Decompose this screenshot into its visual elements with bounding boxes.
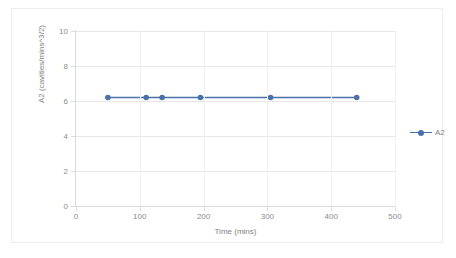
x-gridline <box>204 31 205 206</box>
x-axis-line <box>75 206 395 207</box>
data-point <box>198 95 204 101</box>
y-tick-label-wrap: 8 <box>42 62 68 71</box>
y-tick-mark <box>71 66 75 67</box>
y-tick-label: 0 <box>46 202 68 211</box>
y-tick-label: 8 <box>46 62 68 71</box>
data-point <box>354 95 360 101</box>
x-gridline <box>331 31 332 206</box>
data-point <box>159 95 165 101</box>
y-gridline <box>76 66 395 67</box>
x-tick-label: 100 <box>123 212 157 221</box>
x-tick-mark <box>267 207 268 211</box>
chart-legend: A2 <box>410 128 445 137</box>
x-tick-mark <box>331 207 332 211</box>
y-tick-mark <box>71 206 75 207</box>
series-a2-svg <box>76 31 395 206</box>
y-tick-label-wrap: 4 <box>42 132 68 141</box>
x-tick-label: 0 <box>59 212 93 221</box>
y-tick-label: 10 <box>46 27 68 36</box>
y-tick-label: 4 <box>46 132 68 141</box>
data-point <box>268 95 274 101</box>
x-tick-mark <box>76 207 77 211</box>
data-point <box>105 95 111 101</box>
y-tick-mark <box>71 171 75 172</box>
y-gridline <box>76 31 395 32</box>
y-tick-label-wrap: 10 <box>42 27 68 36</box>
x-gridline <box>395 31 396 206</box>
y-tick-mark <box>71 31 75 32</box>
x-gridline <box>140 31 141 206</box>
y-gridline <box>76 101 395 102</box>
y-tick-mark <box>71 101 75 102</box>
data-point <box>143 95 149 101</box>
x-tick-mark <box>140 207 141 211</box>
x-gridline <box>267 31 268 206</box>
plot-area <box>76 31 395 206</box>
y-gridline <box>76 171 395 172</box>
legend-label-a2: A2 <box>435 128 445 137</box>
chart-container: A2 (cavities/mins^3/2) Time (mins) A2 02… <box>11 8 443 243</box>
y-tick-label-wrap: 0 <box>42 202 68 211</box>
x-tick-label: 300 <box>250 212 284 221</box>
y-tick-label: 2 <box>46 167 68 176</box>
x-tick-label: 200 <box>187 212 221 221</box>
x-tick-label: 500 <box>378 212 412 221</box>
y-tick-mark <box>71 136 75 137</box>
legend-marker-icon <box>410 129 432 137</box>
x-tick-mark <box>204 207 205 211</box>
legend-dot-icon <box>418 130 424 136</box>
y-tick-label-wrap: 6 <box>42 97 68 106</box>
x-tick-mark <box>395 207 396 211</box>
x-tick-label: 400 <box>314 212 348 221</box>
y-tick-label-wrap: 2 <box>42 167 68 176</box>
y-gridline <box>76 136 395 137</box>
y-tick-label: 6 <box>46 97 68 106</box>
x-axis-title: Time (mins) <box>76 227 395 236</box>
